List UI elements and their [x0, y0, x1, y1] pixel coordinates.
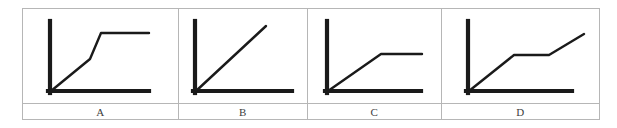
graph-a [23, 9, 179, 103]
panel-label-a: A [23, 104, 179, 119]
panel-label-b: B [179, 104, 308, 119]
panel-cell-a [23, 9, 179, 103]
curve-c [328, 54, 422, 91]
multi-panel-graph-figure: A B C D [22, 8, 600, 120]
panel-cell-b [179, 9, 308, 103]
curve-b [196, 26, 266, 91]
panel-row [23, 9, 599, 103]
panel-cell-d [442, 9, 599, 103]
panel-label-c: C [308, 104, 442, 119]
graph-d [442, 9, 599, 103]
graph-c [308, 9, 442, 103]
panel-label-row: A B C D [23, 103, 599, 119]
graph-b [179, 9, 308, 103]
curve-d [469, 34, 584, 91]
panel-cell-c [308, 9, 442, 103]
panel-label-d: D [442, 104, 599, 119]
curve-a [51, 33, 149, 91]
